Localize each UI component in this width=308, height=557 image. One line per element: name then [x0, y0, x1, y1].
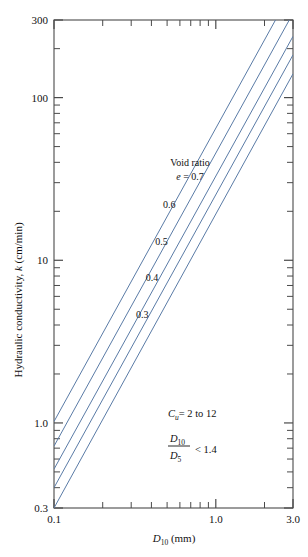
curve-void-ratio-0-6 [54, 13, 293, 446]
hydraulic-conductivity-chart: 300100101.00.3 0.11.03.0 Hydraulic condu… [0, 0, 308, 557]
cu-rest: = 2 to 12 [179, 408, 217, 419]
void-ratio-first-label: e = 0.7 [176, 171, 204, 182]
curve-void-ratio-0-5 [54, 36, 293, 469]
curve-void-ratio-0-7 [54, 0, 293, 422]
svg-text:D10: D10 [169, 433, 185, 447]
svg-text:D5: D5 [169, 450, 182, 464]
svg-text:Cu= 2 to 12: Cu= 2 to 12 [168, 408, 216, 422]
y-tick-label: 1.0 [34, 417, 48, 429]
y-tick-label: 300 [32, 14, 49, 26]
void-ratio-equals: = [181, 171, 192, 182]
void-ratio-curves [54, 0, 293, 508]
svg-text:Hydraulic conductivity, k (cm/: Hydraulic conductivity, k (cm/min) [12, 222, 25, 377]
annotation-cu: Cu= 2 to 12 [168, 408, 216, 422]
x-tick-label: 3.0 [286, 513, 300, 525]
void-ratio-title: Void ratio [170, 157, 210, 168]
x-axis-title: D10 (mm) [152, 532, 196, 547]
curve-label-0-3: 0.3 [136, 309, 149, 320]
x-axis-title-unit: (mm) [168, 532, 196, 545]
curve-label-0-5: 0.5 [155, 236, 168, 247]
curve-void-ratio-0-4 [54, 55, 293, 488]
curves-clipped [54, 0, 293, 508]
d-ratio-rest: < 1.4 [195, 444, 217, 455]
x-axis-tick-labels: 0.11.03.0 [47, 513, 300, 525]
d-ratio-den-sub: 5 [178, 455, 182, 464]
void-ratio-value-0: 0.7 [191, 171, 204, 182]
y-tick-label: 100 [32, 92, 49, 104]
chart-svg: 300100101.00.3 0.11.03.0 Hydraulic condu… [0, 0, 308, 557]
y-axis-title-post: (cm/min) [12, 222, 25, 266]
x-axis-title-symbol: D [152, 532, 161, 544]
svg-text:D10 (mm): D10 (mm) [152, 532, 196, 547]
y-axis-title: Hydraulic conductivity, k (cm/min) [12, 222, 25, 377]
x-tick-label: 1.0 [209, 513, 223, 525]
curve-label-0-4: 0.4 [146, 272, 159, 283]
void-ratio-annotation: Void ratio e = 0.7 [170, 157, 210, 182]
annotation-d-ratio: D10 D5 < 1.4 [168, 433, 217, 464]
curve-label-0-6: 0.6 [163, 199, 176, 210]
y-axis-tick-labels: 300100101.00.3 [32, 14, 49, 514]
y-tick-label: 10 [37, 254, 49, 266]
y-axis-title-pre: Hydraulic conductivity, [12, 271, 24, 378]
x-tick-label: 0.1 [47, 513, 61, 525]
